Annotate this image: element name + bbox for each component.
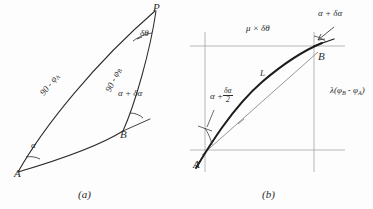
angle-tick-at-A xyxy=(26,157,40,159)
mean-course-label: α +δα2 xyxy=(210,87,233,104)
leader-mean-course xyxy=(207,110,214,127)
curve-A-to-B xyxy=(196,43,322,168)
caption-panel-a: (a) xyxy=(78,189,91,200)
angle-tick-at-B xyxy=(130,113,143,118)
angle-label-delta-theta: δθ xyxy=(140,29,149,38)
angle-label-alpha-panel-a: α xyxy=(31,141,36,150)
angle-label-alpha-plus-delta-alpha-panel-a: α + δα xyxy=(118,89,142,98)
point-label-A-panel-b: A xyxy=(193,159,200,170)
angle-label-alpha-plus-delta-alpha-panel-b: α + δα xyxy=(318,9,342,18)
departure-label: μ × δθ xyxy=(246,24,270,33)
meridional-parts-tail: ) xyxy=(362,85,365,95)
meridional-parts-mid: - φ xyxy=(346,85,358,95)
mean-course-fraction: δα2 xyxy=(223,87,232,104)
rhumb-length-label: L xyxy=(260,69,265,78)
meridional-parts-head: λ(φ xyxy=(330,85,342,95)
small-mark-on-chord xyxy=(238,119,244,124)
arc-A-to-B xyxy=(18,131,123,172)
leader-arrow-to-B xyxy=(318,27,334,40)
figure-svg xyxy=(0,0,373,209)
mean-course-denominator: 2 xyxy=(223,96,232,104)
caption-panel-b: (b) xyxy=(262,189,275,200)
mean-course-prefix: α + xyxy=(210,91,223,101)
point-label-B-panel-b: B xyxy=(318,51,325,62)
figure-root: A B P 90 - φA 90 - φB δθ α + δα α (a) A … xyxy=(0,0,373,209)
meridional-parts-label: λ(φB - φA) xyxy=(330,86,365,96)
point-label-B-panel-a: B xyxy=(120,129,127,140)
point-label-A-panel-a: A xyxy=(14,168,21,179)
point-label-P-panel-a: P xyxy=(153,2,160,13)
